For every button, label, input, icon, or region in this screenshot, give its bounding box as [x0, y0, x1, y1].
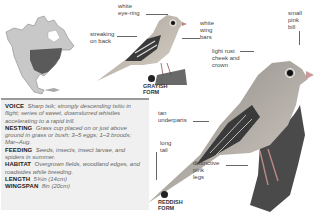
range-map	[4, 10, 76, 96]
leader-line	[193, 121, 209, 122]
info-voice: VOICE Sharp tsik; strongly descending ts…	[5, 103, 145, 125]
leader-line	[226, 165, 248, 166]
leader-line	[299, 31, 300, 45]
info-wingspan: WINGSPAN 8in (20cm)	[5, 183, 145, 190]
label-white-wing-bars: white wing bars	[200, 20, 214, 41]
leader-line	[117, 36, 137, 37]
info-habitat: HABITAT Overgrown fields, woodland edges…	[5, 161, 145, 176]
info-nesting: NESTING Grass cup placed on or just abov…	[5, 125, 145, 147]
species-info-box: VOICE Sharp tsik; strongly descending ts…	[1, 98, 149, 210]
label-small-pink-bill: small pink bill	[288, 10, 302, 31]
info-length: LENGTH 5¾in (14cm)	[5, 176, 145, 183]
label-tan-underparts: tan underparts	[158, 110, 187, 124]
label-light-rust-cheek-crown: light rust cheek and crown	[212, 48, 240, 69]
label-long-tail: long tail	[160, 140, 171, 154]
form-label-reddish: REDDISH FORM	[158, 199, 183, 211]
form-label-grayish: GRAYISH FORM	[143, 83, 168, 95]
label-distinctive-pink-legs: distinctive pink legs	[193, 160, 219, 181]
leader-line	[146, 14, 168, 15]
bird-illustration-reddish	[140, 45, 315, 212]
info-feeding: FEEDING Seeds, insects, insect larvae, a…	[5, 147, 145, 162]
form-marker-icon	[148, 75, 155, 82]
leader-line	[182, 38, 200, 39]
leader-line	[156, 152, 157, 180]
leader-line	[240, 51, 254, 52]
label-white-eye-ring: white eye-ring	[118, 3, 140, 17]
form-marker-icon	[161, 191, 168, 198]
label-streaking-on-back: streaking on back	[90, 31, 114, 45]
